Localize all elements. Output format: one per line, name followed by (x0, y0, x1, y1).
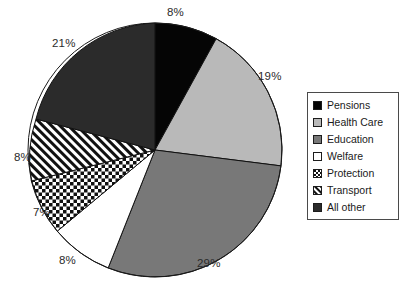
legend-item-education[interactable]: Education (313, 131, 398, 148)
slice-label-protection: 7% (33, 207, 50, 219)
solid-white-swatch (313, 152, 322, 161)
solid-gray-swatch (313, 135, 322, 144)
legend-label: Protection (327, 168, 374, 179)
legend-label: Welfare (327, 151, 363, 162)
legend-label: All other (327, 202, 366, 213)
pie-chart: 8% 19% 29% 8% 7% 8% 21% Pensions Health … (0, 0, 406, 286)
slice-label-pensions: 8% (167, 7, 184, 19)
solid-light-gray-swatch (313, 118, 322, 127)
slice-label-welfare: 8% (59, 255, 76, 267)
legend-item-all-other[interactable]: All other (313, 199, 398, 216)
slice-label-health-care: 19% (258, 71, 282, 83)
legend-item-protection[interactable]: Protection (313, 165, 398, 182)
solid-black-swatch (313, 101, 322, 110)
slice-label-transport: 8% (14, 152, 31, 164)
diagonal-stripes-swatch (313, 186, 322, 195)
legend-item-welfare[interactable]: Welfare (313, 148, 398, 165)
legend-label: Education (327, 134, 374, 145)
chart-legend: Pensions Health Care Education Welfare P… (307, 92, 399, 220)
slice-label-education: 29% (197, 258, 221, 270)
slice-label-all-other: 21% (52, 38, 76, 50)
legend-item-transport[interactable]: Transport (313, 182, 398, 199)
legend-label: Health Care (327, 117, 383, 128)
legend-label: Pensions (327, 100, 370, 111)
checkerboard-swatch (313, 169, 322, 178)
legend-label: Transport (327, 185, 372, 196)
legend-item-pensions[interactable]: Pensions (313, 97, 398, 114)
legend-item-health-care[interactable]: Health Care (313, 114, 398, 131)
solid-dark-swatch (313, 203, 322, 212)
